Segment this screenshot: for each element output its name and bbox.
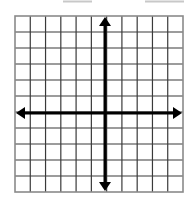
arrow-up-icon [99, 17, 111, 26]
arrow-right-icon [173, 107, 182, 119]
coordinate-grid-svg [0, 0, 187, 200]
arrow-down-icon [99, 182, 111, 191]
coordinate-plane [0, 0, 187, 200]
axes [16, 17, 182, 191]
grid-border [15, 16, 183, 192]
arrow-left-icon [16, 107, 25, 119]
grid-lines [15, 16, 183, 192]
